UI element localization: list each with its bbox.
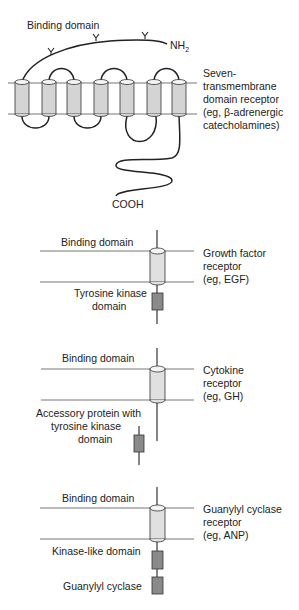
cyt-binding-label: Binding domain <box>62 352 135 364</box>
seven-tm-description: Seven- transmembrane domain receptor (eg… <box>203 67 283 131</box>
transmembrane-cylinder <box>150 366 165 403</box>
seven-tm-binding-label: Binding domain <box>27 19 100 31</box>
seven-tm-receptor: Binding domain NH2 COOH <box>8 19 283 210</box>
gf-binding-label: Binding domain <box>61 236 134 248</box>
svg-text:Seven-: Seven- <box>203 67 237 79</box>
svg-text:(eg, β-adrenergic: (eg, β-adrenergic <box>203 106 283 118</box>
svg-text:(eg, ANP): (eg, ANP) <box>203 529 249 541</box>
intracellular-loop <box>22 116 49 128</box>
svg-text:tyrosine kinase: tyrosine kinase <box>51 420 121 432</box>
intracellular-loop <box>74 116 101 128</box>
gf-kinase-label: Tyrosine kinase <box>74 287 147 299</box>
gc-binding-label: Binding domain <box>62 492 135 504</box>
svg-text:transmembrane: transmembrane <box>203 80 277 92</box>
glycosylation-icon <box>48 32 148 55</box>
svg-text:domain: domain <box>78 433 113 445</box>
svg-text:(eg, EGF): (eg, EGF) <box>203 273 249 285</box>
accessory-label: Accessory protein with <box>36 407 141 419</box>
receptor-diagram: Binding domain NH2 COOH <box>0 0 299 610</box>
svg-text:domain receptor: domain receptor <box>203 93 279 105</box>
guanylyl-cyclase-receptor: Binding domain Kinase-like domain Guanyl… <box>40 487 282 594</box>
svg-text:receptor: receptor <box>203 516 242 528</box>
intracellular-loop <box>126 116 157 142</box>
gf-description: Growth factor <box>203 247 267 259</box>
kinase-like-label: Kinase-like domain <box>52 545 141 557</box>
growth-factor-receptor: Binding domain Tyrosine kinase domain Gr… <box>40 230 267 324</box>
cyclase-label: Guanylyl cyclase <box>63 580 142 592</box>
svg-text:domain: domain <box>92 300 127 312</box>
transmembrane-cylinder <box>150 248 165 285</box>
nh2-label: NH2 <box>170 39 189 53</box>
cyt-description: Cytokine <box>203 364 244 376</box>
guanylyl-cyclase-domain <box>152 577 163 594</box>
svg-text:catecholamines): catecholamines) <box>203 119 279 131</box>
cooh-label: COOH <box>112 198 144 210</box>
transmembrane-helices <box>15 80 186 117</box>
tyrosine-kinase-domain <box>152 293 163 310</box>
n-terminal-chain <box>22 40 167 82</box>
transmembrane-cylinder <box>150 505 165 542</box>
gc-description: Guanylyl cyclase <box>203 503 282 515</box>
kinase-like-domain <box>152 551 163 569</box>
cytokine-receptor: Binding domain Accessory protein with ty… <box>36 348 244 465</box>
svg-text:receptor: receptor <box>203 377 242 389</box>
svg-text:receptor: receptor <box>203 260 242 272</box>
accessory-kinase-domain <box>134 435 144 452</box>
svg-text:(eg, GH): (eg, GH) <box>203 390 243 402</box>
